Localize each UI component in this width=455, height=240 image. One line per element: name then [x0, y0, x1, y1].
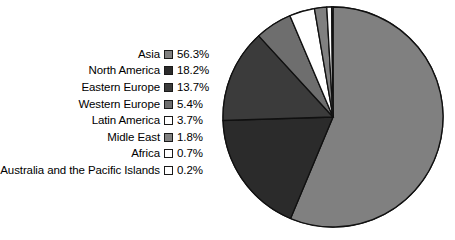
legend-item-label: Eastern Europe [0, 81, 164, 94]
legend-item-value: 3.7% [173, 114, 203, 127]
legend-item-value: 56.3% [173, 48, 209, 61]
legend-color-swatch [164, 166, 173, 175]
legend-item-label: Latin America [0, 114, 164, 127]
legend-item[interactable]: Australia and the Pacific Islands0.2% [0, 162, 212, 179]
legend-item-label: Asia [0, 48, 164, 61]
legend-item[interactable]: Midle East1.8% [0, 129, 212, 146]
legend-item-value: 13.7% [173, 81, 209, 94]
legend-color-swatch [164, 149, 173, 158]
legend-color-swatch [164, 66, 173, 75]
legend-item[interactable]: Latin America3.7% [0, 112, 212, 129]
legend-color-swatch [164, 116, 173, 125]
legend-color-swatch [164, 50, 173, 59]
legend-color-swatch [164, 100, 173, 109]
legend-item[interactable]: Africa0.7% [0, 146, 212, 163]
legend-item-label: Africa [0, 147, 164, 160]
pie-chart-graphic [218, 0, 455, 240]
pie-chart-figure: Asia56.3%North America18.2%Eastern Europ… [0, 0, 455, 240]
legend-item[interactable]: Eastern Europe13.7% [0, 79, 212, 96]
legend-item-value: 1.8% [173, 131, 203, 144]
pie-svg [218, 0, 455, 240]
legend-item-value: 18.2% [173, 64, 209, 77]
chart-legend: Asia56.3%North America18.2%Eastern Europ… [0, 46, 212, 179]
legend-item[interactable]: North America18.2% [0, 63, 212, 80]
legend-color-swatch [164, 133, 173, 142]
legend-color-swatch [164, 83, 173, 92]
legend-item-label: Midle East [0, 131, 164, 144]
legend-item-value: 0.7% [173, 147, 203, 160]
legend-item[interactable]: Asia56.3% [0, 46, 212, 63]
legend-item-label: Australia and the Pacific Islands [0, 164, 164, 177]
legend-item-value: 0.2% [173, 164, 203, 177]
legend-item-value: 5.4% [173, 98, 203, 111]
legend-item-label: North America [0, 64, 164, 77]
pie-slice-group [223, 7, 443, 227]
legend-item[interactable]: Western Europe5.4% [0, 96, 212, 113]
legend-item-label: Western Europe [0, 98, 164, 111]
